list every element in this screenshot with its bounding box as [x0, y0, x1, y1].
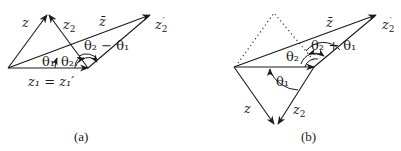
caption-a: (a) [74, 129, 88, 144]
panel-b: z̄ z2′ θ₂ + θ₁ θ₂ θ₁ z z2 (b) [234, 13, 395, 144]
label-zbar: z̄ [325, 15, 333, 30]
label-z2-prime: z2′ [154, 16, 168, 34]
label-theta1: θ₁ [276, 74, 289, 89]
label-theta2: θ₂ [61, 54, 74, 69]
vector-z [234, 67, 274, 124]
label-z1-equals-z1-prime: z₁ = z₁′ [27, 74, 74, 89]
label-zbar: z̄ [98, 14, 106, 29]
vector-diagram: z z2 z̄ z2′ θ₂ − θ₁ θ₁ θ₂ z₁ = z₁′ (a) z… [0, 0, 401, 151]
arc-theta1 [55, 58, 57, 68]
label-theta-diff: θ₂ − θ₁ [84, 38, 129, 53]
label-z2-prime: z2′ [381, 16, 395, 34]
caption-b: (b) [301, 129, 316, 144]
label-theta1: θ₁ [42, 54, 55, 69]
label-z: z [21, 15, 29, 30]
label-z2: z2 [292, 102, 306, 119]
arc-diff [82, 57, 97, 62]
label-theta2: θ₂ [286, 49, 299, 64]
label-theta-sum: θ₂ + θ₁ [311, 38, 356, 53]
construction-lines-dotted [238, 13, 315, 63]
label-z: z [243, 101, 251, 116]
label-z2: z2 [62, 17, 76, 34]
panel-a: z z2 z̄ z2′ θ₂ − θ₁ θ₁ θ₂ z₁ = z₁′ (a) [8, 14, 168, 144]
arc-theta2-arrow [301, 53, 324, 64]
